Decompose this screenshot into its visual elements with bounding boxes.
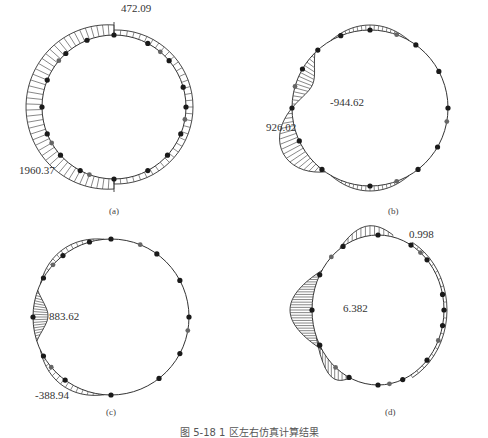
panel-c-caption: (c) — [106, 407, 116, 417]
panel-d-value-mid: 6.382 — [343, 302, 368, 314]
panel-b-caption: (b) — [388, 206, 399, 216]
panel-c-value-bottom: -388.94 — [35, 389, 69, 401]
figure-canvas: 472.09 1960.37 (a) -944.62 926.02 (b) 88… — [0, 0, 488, 438]
panel-c-value-left: 883.62 — [49, 310, 79, 322]
figure-caption: 图 5-18 1 区左右仿真计算结果 — [180, 426, 319, 438]
panel-d-value-top: 0.998 — [409, 228, 434, 240]
panel-b-value-upper: -944.62 — [330, 96, 364, 108]
panel-a-value-left: 1960.37 — [19, 164, 55, 176]
panel-b — [280, 25, 451, 191]
panel-a-caption: (a) — [109, 206, 119, 216]
panel-b-value-lower: 926.02 — [266, 121, 296, 133]
panel-d — [290, 226, 447, 388]
panel-d-caption: (d) — [385, 407, 396, 417]
panel-a-value-top: 472.09 — [121, 2, 152, 14]
